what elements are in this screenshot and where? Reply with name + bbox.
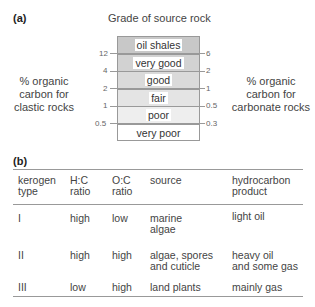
grade-band-very-poor: very poor [118,124,199,142]
row-3-product: mainly gas [232,282,282,293]
row-2-type: II [18,250,24,261]
grade-band-fair: fair [118,89,199,107]
product-line: and some gas [232,261,298,272]
grade-band-good: good [118,71,199,89]
left-tick: 4 [103,66,107,75]
grade-label: very good [133,57,183,69]
right-axis-label: % organic carbon for carbonate rocks [228,75,314,114]
row-1-hc: high [70,213,90,224]
grade-band-poor: poor [118,106,199,124]
right-tick: 6 [206,49,210,58]
row-1-oc: low [112,213,128,224]
tick-line [110,71,205,72]
right-axis-line: carbon for [228,88,314,101]
source-line: and cuticle [150,261,213,272]
header-hydrocarbon-product: hydrocarbonproduct [232,175,290,197]
right-tick: 0.5 [206,101,217,110]
header-hc-ratio: H:Cratio [70,175,90,197]
part-b-label: (b) [13,155,27,167]
row-1-product: light oil [232,211,265,222]
left-axis-label: % organic carbon for clastic rocks [4,75,84,114]
left-axis-line: carbon for [4,88,84,101]
tick-line [110,53,205,54]
right-tick: 2 [206,66,210,75]
row-1-type: I [18,213,21,224]
left-tick: 1 [103,101,107,110]
header-line: ratio [70,186,90,197]
grade-label: very poor [135,127,183,139]
row-3-oc: high [112,282,132,293]
header-source: source [150,175,182,186]
tick-line [110,88,205,89]
row-3-source: land plants [150,282,201,293]
right-axis-line: % organic [228,75,314,88]
grade-band-oil-shales: oil shales [118,36,199,54]
header-line: product [232,186,290,197]
header-kerogen-type: kerogentype [18,175,56,197]
table-bottom-rule [13,296,303,297]
table-top-rule [13,169,303,170]
diagram-title: Grade of source rock [108,12,211,24]
grade-label: oil shales [135,39,183,51]
grade-label: good [145,74,172,86]
row-2-source: algae, sporesand cuticle [150,250,213,272]
header-line: ratio [112,186,132,197]
left-axis-line: clastic rocks [4,101,84,114]
left-tick: 2 [103,84,107,93]
grade-label: poor [146,109,171,121]
grade-band-very-good: very good [118,54,199,72]
right-axis-line: carbonate rocks [228,101,314,114]
row-2-oc: high [112,250,132,261]
grade-label: fair [149,92,168,104]
source-line: algae [150,224,182,235]
tick-line [110,106,205,107]
tick-line [110,123,205,124]
row-3-type: III [18,282,27,293]
left-axis-line: % organic [4,75,84,88]
row-3-hc: low [70,282,86,293]
row-2-product: heavy oiland some gas [232,250,298,272]
header-line: type [18,186,56,197]
row-2-hc: high [70,250,90,261]
left-tick: 12 [99,49,108,58]
table-header-rule [13,204,303,205]
right-tick: 1 [206,84,210,93]
header-oc-ratio: O:Cratio [112,175,132,197]
part-a-label: (a) [13,12,26,24]
row-1-source: marinealgae [150,213,182,235]
right-tick: 0.3 [206,119,217,128]
header-line: source [150,175,182,186]
left-tick: 0.5 [95,119,106,128]
